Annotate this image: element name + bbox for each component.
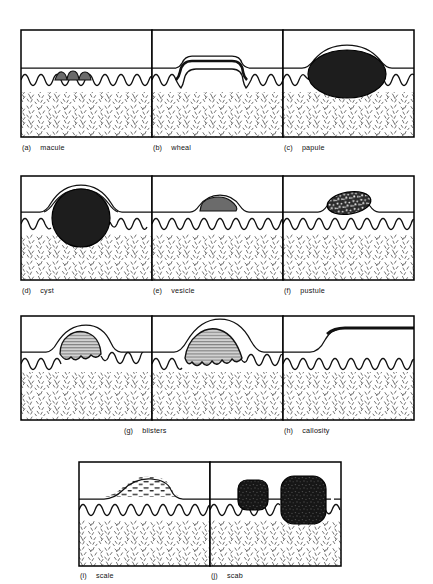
dermis-layer [21,372,152,420]
dermis-layer [79,520,210,566]
dermis-layer [283,372,414,420]
panel-label-pustule: (f) pustule [284,286,325,295]
dermis-layer [283,234,414,280]
lesion-scab-small [238,480,268,510]
lesion-cyst [52,189,110,247]
panel-vesicle [152,176,283,280]
row-4: (i) scale (j) scab [79,462,341,580]
dermis-layer [152,92,283,137]
panel-label-blisters: (g) blisters [124,426,167,435]
lesion-papule [308,50,386,98]
row-2: (d) cyst (e) vesicle (f) pustule [21,176,414,295]
dermis-layer [152,372,283,420]
panel-label-wheal: (b) wheal [153,143,191,152]
panel-papule [283,30,414,137]
panel-label-vesicle: (e) vesicle [153,286,195,295]
skin-lesion-figure: (a) macule (b) wheal (c) papule [0,0,433,584]
panel-label-callosity: (h) callosity [284,426,330,435]
row-1: (a) macule (b) wheal (c) papule [21,30,414,152]
dermis-layer [283,92,414,137]
dermis-layer [152,234,283,280]
panel-label-scale: (i) scale [80,571,114,580]
panel-callosity [283,316,414,420]
panel-macule [21,30,152,137]
panel-cyst [21,176,152,280]
panel-scale [79,462,210,566]
row-3: (g) blisters (h) callosity [21,316,414,435]
panel-blister-small [21,316,152,420]
lesion-scab-large [281,476,326,524]
dermis-layer [21,92,152,137]
panel-blister-large [152,316,283,420]
dermis-layer [210,520,341,566]
panel-label-scab: (j) scab [211,571,243,580]
lesion-macule [55,71,91,80]
panel-pustule [283,176,414,280]
panel-scab [210,462,341,566]
panel-label-macule: (a) macule [22,143,65,152]
panel-wheal [152,30,286,137]
panel-label-papule: (c) papule [284,143,325,152]
